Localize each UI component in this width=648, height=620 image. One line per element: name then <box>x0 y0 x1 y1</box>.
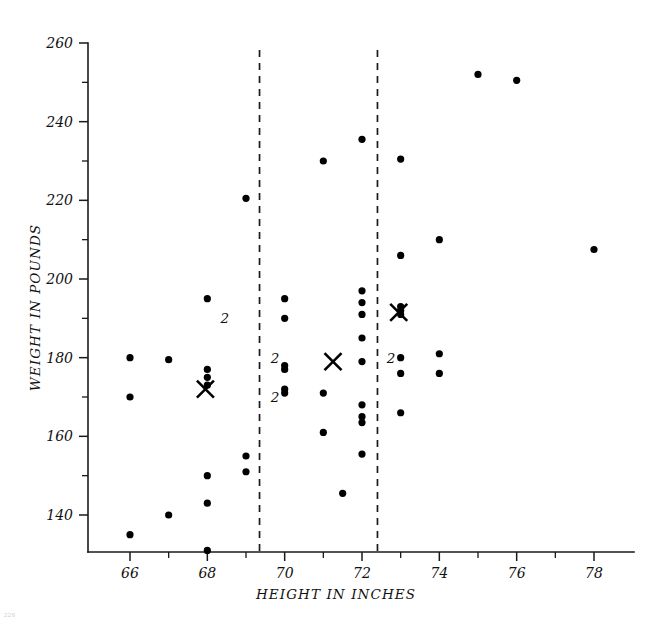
x-tick-label: 68 <box>198 565 216 581</box>
data-point <box>358 299 365 306</box>
data-point <box>397 252 404 259</box>
data-point <box>358 136 365 143</box>
plot-canvas: 14016018020022024026066687072747678 2222… <box>0 0 648 620</box>
axes <box>88 43 634 552</box>
data-point <box>397 409 404 416</box>
overlap-count-label: 2 <box>386 350 396 366</box>
x-tick-label: 66 <box>121 565 139 581</box>
data-point <box>204 366 211 373</box>
data-point <box>242 468 249 475</box>
data-point <box>590 246 597 253</box>
y-tick-label: 260 <box>45 35 73 51</box>
data-point <box>204 374 211 381</box>
data-points <box>126 71 597 554</box>
data-point <box>397 354 404 361</box>
x-tick-label: 74 <box>430 565 448 581</box>
data-point <box>358 419 365 426</box>
data-point <box>358 334 365 341</box>
data-point <box>126 531 133 538</box>
data-point <box>474 71 481 78</box>
data-point <box>320 389 327 396</box>
figure-corner-note: 226 <box>4 612 16 618</box>
data-point <box>358 358 365 365</box>
y-tick-label: 200 <box>45 271 73 287</box>
data-point <box>165 356 172 363</box>
data-point <box>320 157 327 164</box>
y-tick-label: 220 <box>45 192 73 208</box>
data-point <box>126 354 133 361</box>
x-tick-label: 76 <box>508 565 526 581</box>
x-axis-title: HEIGHT IN INCHES <box>255 586 416 602</box>
data-point <box>397 155 404 162</box>
data-point <box>281 315 288 322</box>
overlap-count-label: 2 <box>219 310 229 326</box>
data-point <box>358 450 365 457</box>
y-tick-label: 140 <box>46 507 73 523</box>
data-point <box>204 500 211 507</box>
x-tick-label: 78 <box>585 565 603 581</box>
data-point <box>513 77 520 84</box>
data-point <box>320 429 327 436</box>
data-point <box>358 311 365 318</box>
data-point <box>242 195 249 202</box>
x-tick-label: 72 <box>353 565 371 581</box>
data-point <box>436 370 443 377</box>
data-point <box>358 401 365 408</box>
y-tick-label: 160 <box>46 428 73 444</box>
data-point <box>165 511 172 518</box>
data-point <box>242 452 249 459</box>
overlap-count-labels: 2222 <box>219 310 395 405</box>
scatter-plot-figure: 14016018020022024026066687072747678 2222… <box>0 0 648 620</box>
data-point <box>281 366 288 373</box>
data-point <box>339 490 346 497</box>
data-point <box>204 547 211 554</box>
y-axis-title: WEIGHT IN POUNDS <box>27 224 43 391</box>
data-point <box>281 389 288 396</box>
data-point <box>281 295 288 302</box>
overlap-count-label: 2 <box>270 350 280 366</box>
group-mean-marker <box>325 353 342 370</box>
axis-tick-labels: 14016018020022024026066687072747678 <box>45 35 603 581</box>
data-point <box>436 236 443 243</box>
data-point <box>397 370 404 377</box>
data-point <box>204 295 211 302</box>
axis-titles: HEIGHT IN INCHESWEIGHT IN POUNDS <box>27 224 416 602</box>
y-tick-label: 240 <box>45 114 73 130</box>
y-tick-label: 180 <box>46 350 73 366</box>
data-point <box>204 472 211 479</box>
data-point <box>358 287 365 294</box>
overlap-count-label: 2 <box>270 389 280 405</box>
axis-ticks <box>79 43 594 561</box>
data-point <box>126 393 133 400</box>
data-point <box>436 350 443 357</box>
x-tick-label: 70 <box>276 565 294 581</box>
